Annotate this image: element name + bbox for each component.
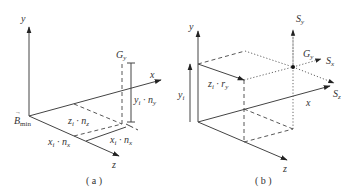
g-point-b: [291, 65, 295, 69]
x-axis-label-a: x: [149, 69, 155, 80]
top-back-dashed-b: [198, 51, 245, 64]
caption-a: ( a ): [86, 175, 102, 187]
sy-label-b: Sy: [296, 13, 305, 26]
sx-axis-b: [293, 59, 321, 67]
caption-b: ( b ): [255, 175, 272, 187]
origin-arrow-mark-a: →: [15, 109, 21, 115]
top-far-dotted-b: [245, 51, 293, 67]
z-axis-label-b: z: [282, 163, 287, 174]
origin-label-a: Bmin: [14, 115, 31, 128]
panel-b: y x z yi zi · ry Gy Sy Sx Sz ( b ): [177, 13, 341, 187]
figure: y x z Bmin → Gy yi · ny zi · nz xi · nx …: [0, 0, 350, 194]
bottom-back-dashed-b: [244, 109, 293, 129]
sz-label-b: Sz: [333, 88, 341, 101]
width-tick-a: [126, 124, 138, 130]
height-label-a: yi · ny: [133, 94, 157, 107]
x-axis-label-b: x: [305, 97, 311, 108]
z-axis-b: [198, 122, 287, 160]
sz-axis-b: [293, 67, 334, 83]
height-label-b: yi: [177, 89, 184, 102]
width-left-label-a: xi · nx: [47, 136, 71, 149]
top-right-dotted-b: [244, 67, 293, 80]
point-label-b: Gy: [303, 48, 314, 61]
y-axis-label-b: y: [188, 21, 194, 32]
width-right-label-a: xi · nx: [109, 134, 133, 147]
panel-a: y x z Bmin → Gy yi · ny zi · nz xi · nx …: [14, 13, 161, 187]
y-axis-label-a: y: [20, 13, 26, 24]
sx-label-b: Sx: [326, 55, 335, 68]
depth-label-a: zi · nz: [67, 115, 89, 128]
point-label-a: Gy: [116, 49, 127, 62]
z-axis-label-a: z: [111, 159, 116, 170]
offset-label-b: zi · ry: [207, 78, 229, 91]
bottom-right-dashed-b: [244, 129, 293, 142]
